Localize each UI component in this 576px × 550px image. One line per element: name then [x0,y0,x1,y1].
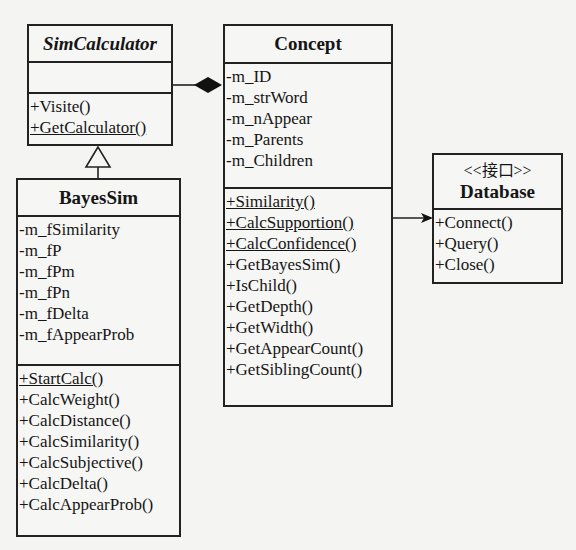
method-row: +CalcSubjective() [19,452,179,473]
methods-section: +Connect() +Query() +Close() [434,210,561,275]
method-row: +CalcAppearProb() [19,494,179,515]
attributes-section: -m_fSimilarity -m_fP -m_fPm -m_fPn -m_fD… [18,217,179,366]
method-row: +GetWidth() [226,317,391,338]
method-row: +CalcSimilarity() [19,431,179,452]
method-row: +IsChild() [226,275,391,296]
method-row: +StartCalc() [19,368,179,389]
attribute-row: -m_fPm [19,261,179,282]
attribute-row: -m_ID [226,66,391,87]
method-row: +Query() [435,233,561,254]
method-row: +CalcConfidence() [226,233,391,254]
method-row: +Connect() [435,212,561,233]
method-row: +GetAppearCount() [226,338,391,359]
method-row: +Close() [435,254,561,275]
class-title: Database [460,181,535,203]
class-simcalculator[interactable]: SimCalculator +Visite() +GetCalculator() [27,24,173,146]
method-row: +GetBayesSim() [226,254,391,275]
methods-section: +Visite() +GetCalculator() [29,94,171,138]
attributes-section: -m_ID -m_strWord -m_nAppear -m_Parents -… [225,64,391,189]
class-name: BayesSim [18,180,179,217]
class-name: SimCalculator [29,26,171,63]
composition-diamond-icon [194,77,222,93]
generalization-triangle-icon [86,147,110,167]
attribute-row: -m_fP [19,240,179,261]
attribute-row: -m_nAppear [226,108,391,129]
method-row: +CalcDistance() [19,410,179,431]
method-row: +Visite() [30,96,171,117]
method-row: +CalcWeight() [19,389,179,410]
class-title: BayesSim [59,187,138,209]
method-row: +CalcDelta() [19,473,179,494]
stereotype-label: <<接口>> [463,161,531,181]
method-row: +GetDepth() [226,296,391,317]
attribute-row: -m_fSimilarity [19,219,179,240]
class-concept[interactable]: Concept -m_ID -m_strWord -m_nAppear -m_P… [223,24,393,407]
class-title: SimCalculator [43,33,157,55]
method-row: +GetCalculator() [30,117,171,138]
method-row: +CalcSupportion() [226,212,391,233]
attribute-row: -m_Children [226,150,391,171]
class-name: <<接口>> Database [434,155,561,210]
attribute-row: -m_Parents [226,129,391,150]
interface-database[interactable]: <<接口>> Database +Connect() +Query() +Clo… [432,153,563,284]
class-title: Concept [274,33,342,55]
attribute-row: -m_fPn [19,282,179,303]
attribute-row: -m_strWord [226,87,391,108]
attribute-row: -m_fDelta [19,303,179,324]
class-name: Concept [225,26,391,64]
methods-section: +Similarity() +CalcSupportion() +CalcCon… [225,189,391,380]
methods-section: +StartCalc() +CalcWeight() +CalcDistance… [18,366,179,515]
attribute-row: -m_fAppearProb [19,324,179,345]
method-row: +Similarity() [226,191,391,212]
attributes-section [29,63,171,94]
class-bayessim[interactable]: BayesSim -m_fSimilarity -m_fP -m_fPm -m_… [16,178,181,537]
method-row: +GetSiblingCount() [226,359,391,380]
